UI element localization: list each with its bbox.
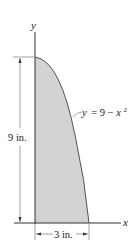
equation-rhs: = 9 − bbox=[91, 107, 116, 118]
height-dim-arrow-down-icon bbox=[19, 217, 22, 222]
width-dim-arrow-right-icon bbox=[83, 233, 88, 236]
width-dimension-label: 3 in. bbox=[54, 229, 73, 240]
parabolic-area-diagram: y x 9 in. 3 in. y = 9 − x 2 bbox=[0, 0, 138, 250]
width-dim-arrow-left-icon bbox=[36, 233, 41, 236]
height-dimension-label: 9 in. bbox=[8, 132, 27, 143]
x-axis-label: x bbox=[122, 216, 128, 228]
shaded-region bbox=[35, 57, 89, 223]
equation-leader-line bbox=[73, 112, 82, 117]
equation-exponent: 2 bbox=[124, 106, 128, 114]
y-axis-label: y bbox=[30, 19, 36, 31]
equation-lhs: y bbox=[81, 107, 87, 118]
height-dim-arrow-up-icon bbox=[19, 58, 22, 63]
curve-equation-label: y = 9 − x 2 bbox=[81, 106, 128, 118]
equation-var: x bbox=[115, 107, 121, 118]
